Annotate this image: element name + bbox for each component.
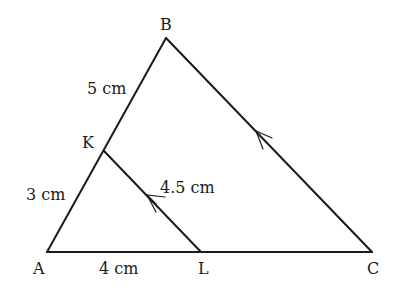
triangle-diagram: B A K L C 5 cm 3 cm 4.5 cm 4 cm	[0, 0, 398, 291]
vertex-label-B: B	[160, 15, 172, 34]
measurement-AK: 3 cm	[26, 185, 65, 204]
segment-KL	[104, 151, 201, 252]
parallel-arrow-icon	[147, 195, 165, 212]
vertex-label-L: L	[198, 259, 209, 278]
measurement-KL: 4.5 cm	[160, 178, 215, 197]
measurement-KB: 5 cm	[87, 79, 126, 98]
vertex-label-C: C	[367, 259, 379, 278]
measurement-AL: 4 cm	[99, 259, 138, 278]
vertex-label-A: A	[32, 259, 45, 278]
segment-AB	[47, 38, 166, 252]
segment-BC	[166, 38, 372, 252]
vertex-label-K: K	[82, 133, 95, 152]
